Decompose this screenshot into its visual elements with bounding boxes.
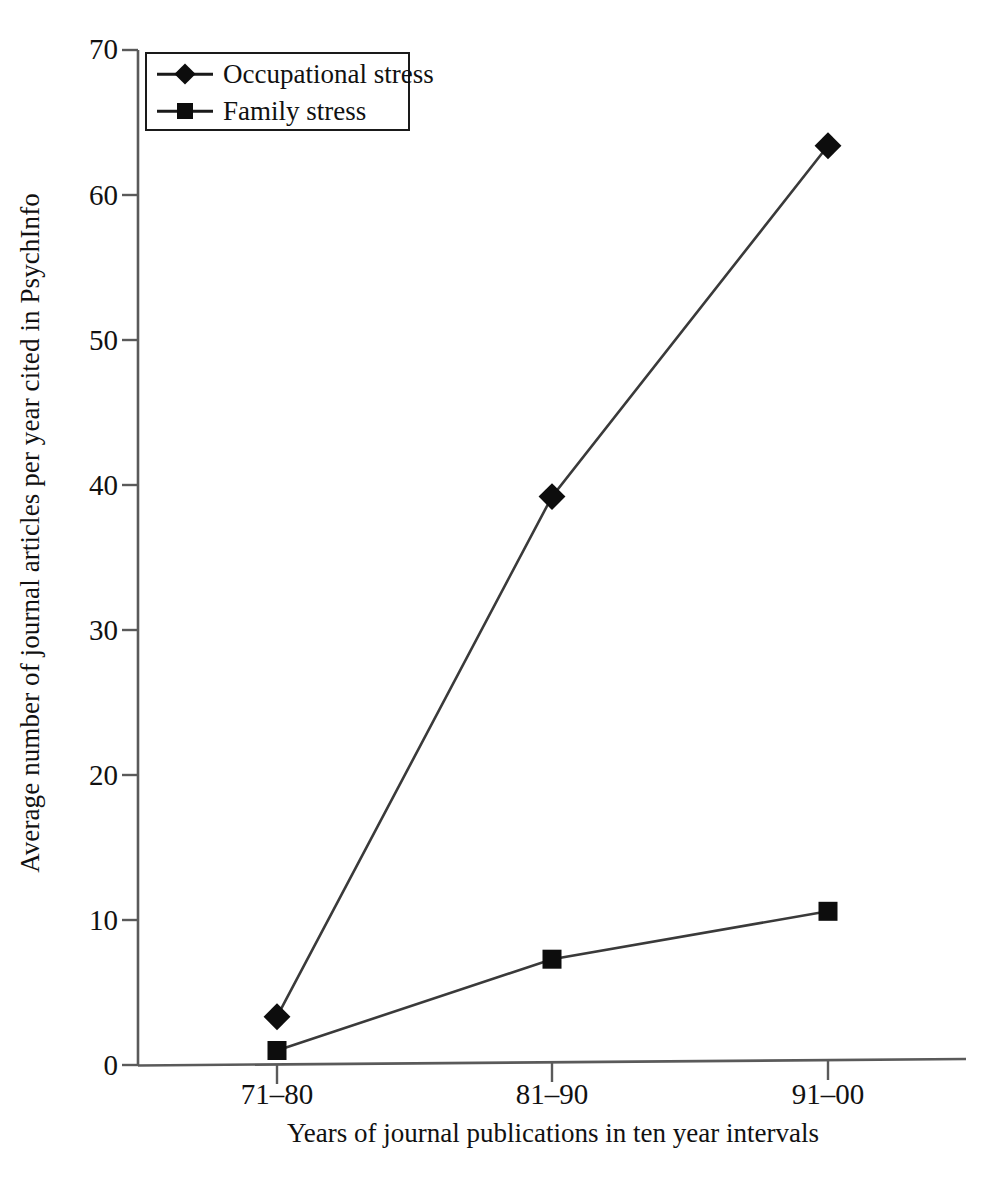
- data-point-marker-diamond: [264, 1003, 291, 1030]
- legend-label: Family stress: [223, 98, 366, 125]
- chart-figure: Average number of journal articles per y…: [0, 0, 999, 1179]
- legend-label: Occupational stress: [223, 61, 434, 88]
- data-point-marker-diamond: [539, 483, 566, 510]
- plot-area: [0, 0, 999, 1179]
- data-point-marker-square: [819, 902, 838, 921]
- legend-item-occupational-stress: Occupational stress: [157, 59, 434, 89]
- data-point-marker-square: [543, 950, 562, 969]
- chart-legend: Occupational stress Family stress: [145, 52, 410, 131]
- series-line-occupational-stress: [277, 146, 828, 1017]
- diamond-marker-icon: [157, 63, 213, 85]
- data-point-marker-diamond: [815, 132, 842, 159]
- series-family-stress: [268, 902, 838, 1060]
- y-axis-ticks: [122, 50, 138, 1065]
- data-point-marker-square: [268, 1041, 287, 1060]
- series-line-family-stress: [277, 911, 828, 1050]
- square-marker-icon: [157, 100, 213, 122]
- legend-item-family-stress: Family stress: [157, 96, 366, 126]
- series-occupational-stress: [264, 132, 842, 1030]
